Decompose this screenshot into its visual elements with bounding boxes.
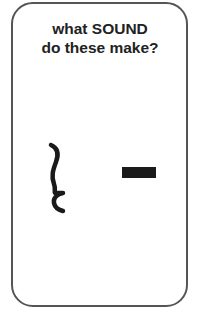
dash-symbol-icon [122, 167, 156, 178]
card-title-line-2: do these make? [0, 38, 200, 57]
card-title: what SOUND do these make? [0, 19, 200, 57]
squiggle-symbol-icon [44, 140, 74, 216]
card-title-line-1: what SOUND [0, 19, 200, 38]
